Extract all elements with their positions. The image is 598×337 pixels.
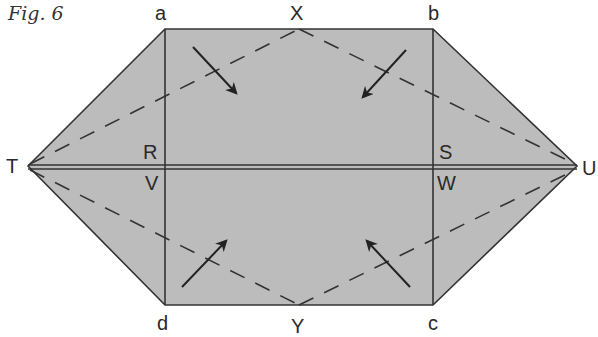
label-y: Y (291, 315, 304, 337)
label-u: U (582, 157, 596, 179)
label-d: d (157, 312, 168, 334)
label-b: b (428, 2, 439, 24)
label-x: X (290, 2, 303, 24)
hexagon-shape (28, 29, 577, 305)
label-t: T (6, 155, 18, 177)
label-w: W (437, 172, 456, 194)
label-a: a (155, 2, 167, 24)
label-c: c (428, 312, 438, 334)
fold-diagram: a X b T U R S V W d Y c (0, 0, 598, 337)
label-v: V (145, 172, 159, 194)
label-r: R (143, 141, 157, 163)
label-s: S (439, 141, 452, 163)
